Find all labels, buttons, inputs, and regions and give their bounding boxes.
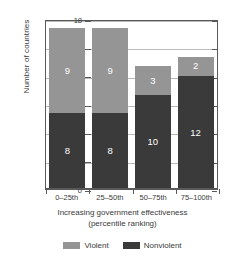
x-axis-title: Increasing government effectiveness (per…	[0, 207, 245, 229]
x-axis-tick-label: 0–25th	[45, 193, 88, 202]
bar-value-label: 12	[190, 128, 201, 138]
plot-area: 0369121518 9898310212	[45, 20, 218, 190]
bar-value-label: 8	[65, 146, 70, 156]
legend-label: Violent	[84, 241, 108, 250]
x-axis-line	[46, 188, 217, 189]
legend-swatch	[123, 242, 140, 249]
bar-value-label: 3	[150, 76, 155, 86]
x-axis-tick-label: 75–100th	[175, 193, 218, 202]
legend-item[interactable]: Violent	[63, 241, 108, 250]
bar-value-label: 9	[65, 66, 70, 76]
bar-value-label: 2	[193, 61, 198, 71]
y-axis-tick-mark-right	[212, 191, 217, 192]
bar-segment-nonviolent[interactable]: 12	[178, 76, 214, 189]
x-axis-title-line1: Increasing government effectiveness	[0, 207, 245, 218]
bar-group: 9898310212	[46, 21, 217, 189]
y-axis-title: Number of countries	[22, 0, 31, 127]
bar-column[interactable]: 212	[178, 21, 214, 189]
x-axis-tick-labels: 0–25th25–50th50–75th75–100th	[45, 193, 218, 202]
bar-value-label: 10	[148, 137, 159, 147]
bar-segment-nonviolent[interactable]: 8	[92, 113, 128, 189]
bar-segment-nonviolent[interactable]: 10	[135, 95, 171, 189]
bar-value-label: 9	[107, 66, 112, 76]
legend-swatch	[63, 242, 80, 249]
x-axis-tick-mark	[219, 189, 220, 194]
bar-column[interactable]: 310	[135, 21, 171, 189]
bar-column[interactable]: 98	[92, 21, 128, 189]
x-axis-tick-label: 50–75th	[132, 193, 175, 202]
bar-value-label: 8	[107, 146, 112, 156]
bar-segment-violent[interactable]: 9	[92, 28, 128, 113]
bar-column[interactable]: 98	[49, 21, 85, 189]
bar-segment-violent[interactable]: 2	[178, 57, 214, 76]
stacked-bar-chart: Number of countries 0369121518 989831021…	[0, 0, 245, 261]
legend-label: Nonviolent	[144, 241, 182, 250]
x-axis-tick-label: 25–50th	[88, 193, 131, 202]
bar-segment-violent[interactable]: 3	[135, 66, 171, 94]
bar-segment-nonviolent[interactable]: 8	[49, 113, 85, 189]
x-axis-title-line2: (percentile ranking)	[0, 218, 245, 229]
chart-legend: ViolentNonviolent	[0, 241, 245, 250]
bar-segment-violent[interactable]: 9	[49, 28, 85, 113]
legend-item[interactable]: Nonviolent	[123, 241, 182, 250]
